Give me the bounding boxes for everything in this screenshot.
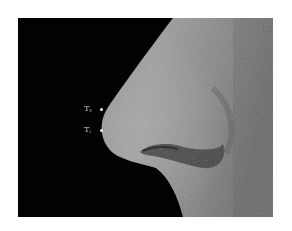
nose-silhouette: [18, 18, 273, 217]
annotation-label-ts: Ts: [84, 105, 92, 114]
landmark-dot-ti: [100, 129, 103, 132]
annotation-label-ti: Ti: [84, 126, 91, 135]
landmark-dot-ts: [100, 108, 103, 111]
nose-photo: [18, 18, 273, 217]
